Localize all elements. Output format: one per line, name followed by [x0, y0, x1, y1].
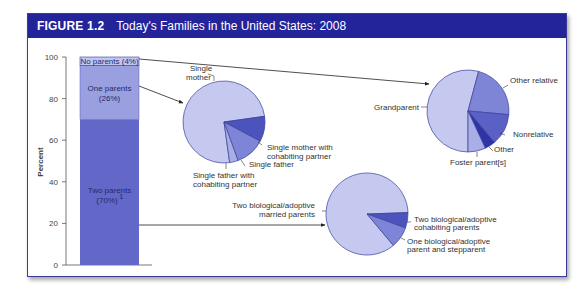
- pie-no-parents: Grandparent Other relative Nonrelative O…: [374, 70, 558, 167]
- bar-label-no-parents: No parents (4%): [80, 57, 139, 66]
- pie-two-parents: Two biological/adoptive married parents …: [232, 173, 497, 255]
- label-foster-parents: Foster parent[s]: [450, 158, 506, 167]
- bar-label-footnote: 1: [119, 192, 124, 201]
- bar-label-one-parents-1: One parents: [87, 84, 131, 93]
- y-tick-100: 100: [45, 53, 59, 62]
- label-single-mother-2: mother: [186, 73, 211, 82]
- chart-canvas: 0 20 40 60 80 100 Percent No parents (4%…: [0, 0, 584, 298]
- label-grandparent: Grandparent: [374, 103, 420, 112]
- y-tick-60: 60: [49, 136, 58, 145]
- label-step-2: parent and stepparent: [407, 245, 486, 254]
- label-single-father: Single father: [249, 160, 294, 169]
- arrow-to-one-parents-pie: [139, 86, 183, 103]
- label-other-relative: Other relative: [510, 76, 559, 85]
- label-father-cohab-2: cohabiting partner: [193, 180, 257, 189]
- y-tick-80: 80: [49, 95, 58, 104]
- label-cohab-2: cohabiting parents: [414, 223, 479, 232]
- label-married-1: Two biological/adoptive: [232, 201, 315, 210]
- y-tick-20: 20: [49, 219, 58, 228]
- arrow-to-no-parents-pie: [139, 59, 429, 84]
- label-mother-cohab-1: Single mother with: [267, 143, 333, 152]
- bar-label-two-parents-1: Two parents: [88, 186, 132, 195]
- label-nonrelative: Nonrelative: [513, 130, 554, 139]
- label-single-mother-1: Single: [190, 64, 213, 73]
- stacked-bar: No parents (4%) One parents (26%) Two pa…: [80, 57, 139, 265]
- bar-label-one-parents-2: (26%): [99, 94, 121, 103]
- y-axis-label: Percent: [36, 147, 45, 177]
- label-other: Other: [494, 145, 514, 154]
- bar-label-two-parents-2: (70%): [96, 196, 118, 205]
- label-father-cohab-1: Single father with: [193, 171, 254, 180]
- label-married-2: married parents: [259, 210, 315, 219]
- y-tick-0: 0: [54, 261, 59, 270]
- y-tick-40: 40: [49, 178, 58, 187]
- pie-one-parents: Single mother Single mother with cohabit…: [183, 64, 333, 189]
